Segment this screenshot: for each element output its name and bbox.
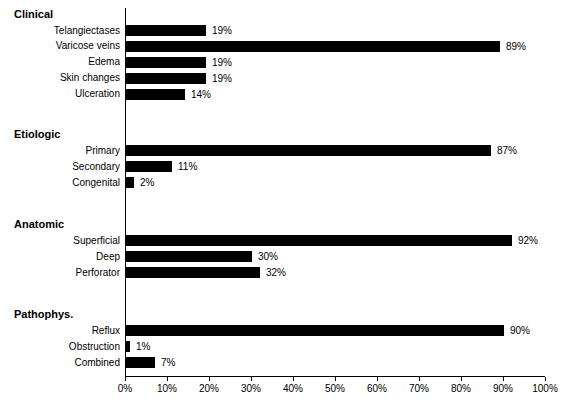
x-tick-label-4: 40% — [275, 383, 311, 394]
x-tick-8 — [461, 377, 462, 381]
bar-value-secondary: 11% — [178, 161, 197, 172]
bar-value-reflux: 90% — [510, 325, 530, 336]
x-tick-label-2: 20% — [191, 383, 227, 394]
x-tick-label-8: 80% — [443, 383, 479, 394]
cat-label-congenital: Congenital — [10, 177, 120, 188]
bar-value-varicose-veins: 89% — [506, 41, 526, 52]
bar-value-skin-changes: 19% — [212, 73, 232, 84]
x-tick-7 — [419, 377, 420, 381]
bar-reflux — [126, 325, 504, 336]
bar-congenital — [126, 177, 134, 188]
group-title-pathophys: Pathophys. — [14, 308, 73, 320]
bar-value-ulceration: 14% — [191, 89, 211, 100]
x-tick-label-9: 90% — [485, 383, 521, 394]
bar-varicose-veins — [126, 41, 500, 52]
bar-edema — [126, 57, 206, 68]
bar-value-telangiectases: 19% — [212, 25, 232, 36]
bar-deep — [126, 251, 252, 262]
cat-label-reflux: Reflux — [10, 325, 120, 336]
bar-value-edema: 19% — [212, 57, 232, 68]
cap-classification-bar-chart: Clinical Etiologic Anatomic Pathophys. T… — [0, 0, 568, 408]
x-tick-label-1: 10% — [149, 383, 185, 394]
cat-label-telangiectases: Telangiectases — [10, 25, 120, 36]
group-title-clinical: Clinical — [14, 8, 53, 20]
x-tick-3 — [251, 377, 252, 381]
bar-superficial — [126, 235, 512, 246]
x-tick-label-3: 30% — [233, 383, 269, 394]
cat-label-skin-changes: Skin changes — [10, 72, 120, 83]
group-title-etiologic: Etiologic — [14, 128, 60, 140]
x-tick-label-5: 50% — [317, 383, 353, 394]
bar-combined — [126, 357, 155, 368]
cat-label-superficial: Superficial — [10, 235, 120, 246]
bar-primary — [126, 145, 491, 156]
bar-value-obstruction: 1% — [136, 341, 150, 352]
cat-label-varicose-veins: Varicose veins — [10, 40, 120, 51]
x-tick-label-10: 100% — [524, 383, 566, 394]
bar-ulceration — [126, 89, 185, 100]
bar-perforator — [126, 267, 260, 278]
group-title-anatomic: Anatomic — [14, 218, 64, 230]
x-tick-label-0: 0% — [107, 383, 143, 394]
x-tick-10 — [545, 377, 546, 381]
cat-label-edema: Edema — [10, 56, 120, 67]
bar-value-combined: 7% — [161, 357, 175, 368]
x-tick-label-7: 70% — [401, 383, 437, 394]
cat-label-combined: Combined — [10, 357, 120, 368]
cat-label-deep: Deep — [10, 251, 120, 262]
cat-label-ulceration: Ulceration — [10, 88, 120, 99]
cat-label-secondary: Secondary — [10, 161, 120, 172]
bar-obstruction — [126, 341, 130, 352]
x-tick-0 — [125, 377, 126, 381]
bar-value-superficial: 92% — [518, 235, 538, 246]
x-tick-6 — [377, 377, 378, 381]
x-tick-5 — [335, 377, 336, 381]
bar-value-perforator: 32% — [266, 267, 286, 278]
bar-secondary — [126, 161, 172, 172]
cat-label-perforator: Perforator — [10, 267, 120, 278]
x-tick-9 — [503, 377, 504, 381]
x-tick-4 — [293, 377, 294, 381]
bar-value-primary: 87% — [497, 145, 517, 156]
x-tick-label-6: 60% — [359, 383, 395, 394]
bar-value-congenital: 2% — [140, 177, 154, 188]
bar-value-deep: 30% — [258, 251, 278, 262]
bar-telangiectases — [126, 25, 206, 36]
bar-skin-changes — [126, 73, 206, 84]
cat-label-primary: Primary — [10, 145, 120, 156]
x-tick-1 — [167, 377, 168, 381]
x-tick-2 — [209, 377, 210, 381]
cat-label-obstruction: Obstruction — [10, 341, 120, 352]
